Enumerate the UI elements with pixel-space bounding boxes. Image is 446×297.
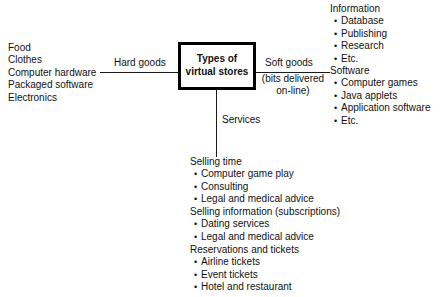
center-node-types-of-virtual-stores: Types of virtual stores [178, 42, 256, 90]
virtual-stores-diagram: Food Clothes Computer hardware Packaged … [0, 0, 446, 297]
group-item: Legal and medical advice [190, 193, 314, 205]
branch-label-services: Services [222, 114, 260, 126]
group-item: Research [330, 40, 387, 52]
branch-sublabel-soft-goods-line-2: on-line) [257, 85, 329, 97]
branch-label-soft-goods: Soft goods [265, 57, 313, 69]
services-group-selling-information: Selling information (subscriptions) Dati… [190, 206, 340, 243]
group-item: Publishing [330, 28, 387, 40]
hard-goods-item: Clothes [8, 54, 96, 66]
group-item: Application software [330, 102, 431, 114]
group-item: Legal and medical advice [190, 231, 340, 243]
branch-label-hard-goods: Hard goods [114, 57, 166, 69]
group-item: Dating services [190, 218, 340, 230]
branch-sublabel-soft-goods-line-1: (bits delivered [257, 73, 329, 85]
soft-goods-group-software: Software Computer games Java applets App… [330, 65, 431, 127]
group-item: Computer games [330, 77, 431, 89]
group-item: Java applets [330, 90, 431, 102]
group-heading: Information [330, 3, 387, 15]
group-item: Hotel and restaurant [190, 281, 299, 293]
services-group-reservations-and-tickets: Reservations and tickets Airline tickets… [190, 244, 299, 294]
center-node-line-2: virtual stores [186, 66, 249, 79]
connector-line-hard-goods [100, 72, 178, 73]
group-item: Airline tickets [190, 256, 299, 268]
group-item: Consulting [190, 181, 314, 193]
group-heading: Reservations and tickets [190, 244, 299, 256]
connector-line-services [216, 90, 217, 157]
group-item: Etc. [330, 115, 431, 127]
group-heading: Software [330, 65, 431, 77]
group-item: Event tickets [190, 269, 299, 281]
soft-goods-group-information: Information Database Publishing Research… [330, 3, 387, 65]
services-group-selling-time: Selling time Computer game play Consulti… [190, 156, 314, 206]
hard-goods-item: Food [8, 42, 96, 54]
group-item: Database [330, 15, 387, 27]
hard-goods-item: Electronics [8, 92, 96, 104]
group-heading: Selling time [190, 156, 314, 168]
hard-goods-item-list: Food Clothes Computer hardware Packaged … [8, 42, 96, 104]
group-item: Etc. [330, 53, 387, 65]
hard-goods-item: Computer hardware [8, 67, 96, 79]
branch-sublabel-soft-goods: (bits delivered on-line) [257, 73, 329, 97]
center-node-line-1: Types of [197, 53, 237, 66]
group-heading: Selling information (subscriptions) [190, 206, 340, 218]
group-item: Computer game play [190, 168, 314, 180]
hard-goods-item: Packaged software [8, 79, 96, 91]
